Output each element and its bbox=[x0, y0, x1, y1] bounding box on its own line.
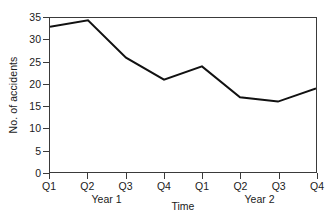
line-chart-figure: No. of accidents 0 5 10 15 20 25 30 35 Q… bbox=[0, 0, 335, 217]
x-tick-mark bbox=[49, 173, 50, 179]
x-tick-mark bbox=[202, 173, 203, 179]
x-axis-title: Time bbox=[49, 200, 317, 212]
y-axis-title: No. of accidents bbox=[6, 17, 20, 173]
x-tick-label-q2-y2: Q2 bbox=[225, 180, 255, 192]
data-series-line bbox=[50, 18, 316, 172]
y-tick-label: 0 bbox=[19, 168, 41, 179]
x-tick-mark bbox=[164, 173, 165, 179]
y-tick-label: 30 bbox=[19, 34, 41, 45]
x-tick-label-q1-y2: Q1 bbox=[187, 180, 217, 192]
y-tick-label: 10 bbox=[19, 123, 41, 134]
y-tick-label: 15 bbox=[19, 101, 41, 112]
plot-area bbox=[49, 17, 317, 173]
x-tick-mark bbox=[317, 173, 318, 179]
y-tick-label: 25 bbox=[19, 57, 41, 68]
y-tick-label: 35 bbox=[19, 12, 41, 23]
x-tick-label-q3-y2: Q3 bbox=[264, 180, 294, 192]
x-tick-label-q2-y1: Q2 bbox=[72, 180, 102, 192]
x-tick-mark bbox=[279, 173, 280, 179]
x-tick-mark bbox=[240, 173, 241, 179]
x-tick-label-q3-y1: Q3 bbox=[111, 180, 141, 192]
x-tick-label-q4-y1: Q4 bbox=[149, 180, 179, 192]
x-tick-label-q1-y1: Q1 bbox=[34, 180, 64, 192]
accidents-line-path bbox=[50, 20, 316, 101]
y-tick-label: 20 bbox=[19, 79, 41, 90]
y-tick-label: 5 bbox=[19, 146, 41, 157]
x-tick-label-q4-y2: Q4 bbox=[302, 180, 332, 192]
x-tick-mark bbox=[126, 173, 127, 179]
x-tick-mark bbox=[87, 173, 88, 179]
